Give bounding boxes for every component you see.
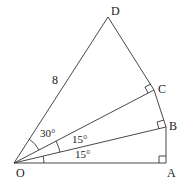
label-angle-AOB: 15° bbox=[75, 148, 90, 160]
angle-arc-COD bbox=[29, 139, 39, 150]
label-C: C bbox=[158, 82, 166, 96]
geometry-diagram: D C B A O 8 30° 15° 15° bbox=[0, 0, 190, 190]
right-angle-marker-A bbox=[159, 156, 166, 163]
angle-arc-BOC bbox=[56, 141, 60, 152]
segment-CD bbox=[108, 17, 154, 90]
label-D: D bbox=[111, 4, 120, 18]
label-angle-COD: 30° bbox=[40, 127, 55, 139]
segment-OD bbox=[14, 17, 108, 163]
label-angle-BOC: 15° bbox=[72, 133, 87, 145]
label-O: O bbox=[16, 166, 25, 180]
angle-arc-AOB bbox=[43, 156, 44, 163]
label-B: B bbox=[169, 119, 177, 133]
label-side-OD: 8 bbox=[52, 73, 58, 87]
label-A: A bbox=[167, 166, 176, 180]
